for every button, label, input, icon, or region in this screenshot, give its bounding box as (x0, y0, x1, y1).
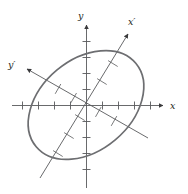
y-prime-axis-label: y′ (7, 59, 16, 70)
figure-background (0, 0, 188, 194)
y-axis-label: y (77, 10, 84, 21)
x-axis-label: x (170, 100, 176, 111)
x-prime-axis-label: x′ (128, 16, 136, 27)
rotated-axes-ellipse-figure: x y x′ y′ (0, 0, 188, 194)
figure-canvas: x y x′ y′ (0, 0, 188, 194)
